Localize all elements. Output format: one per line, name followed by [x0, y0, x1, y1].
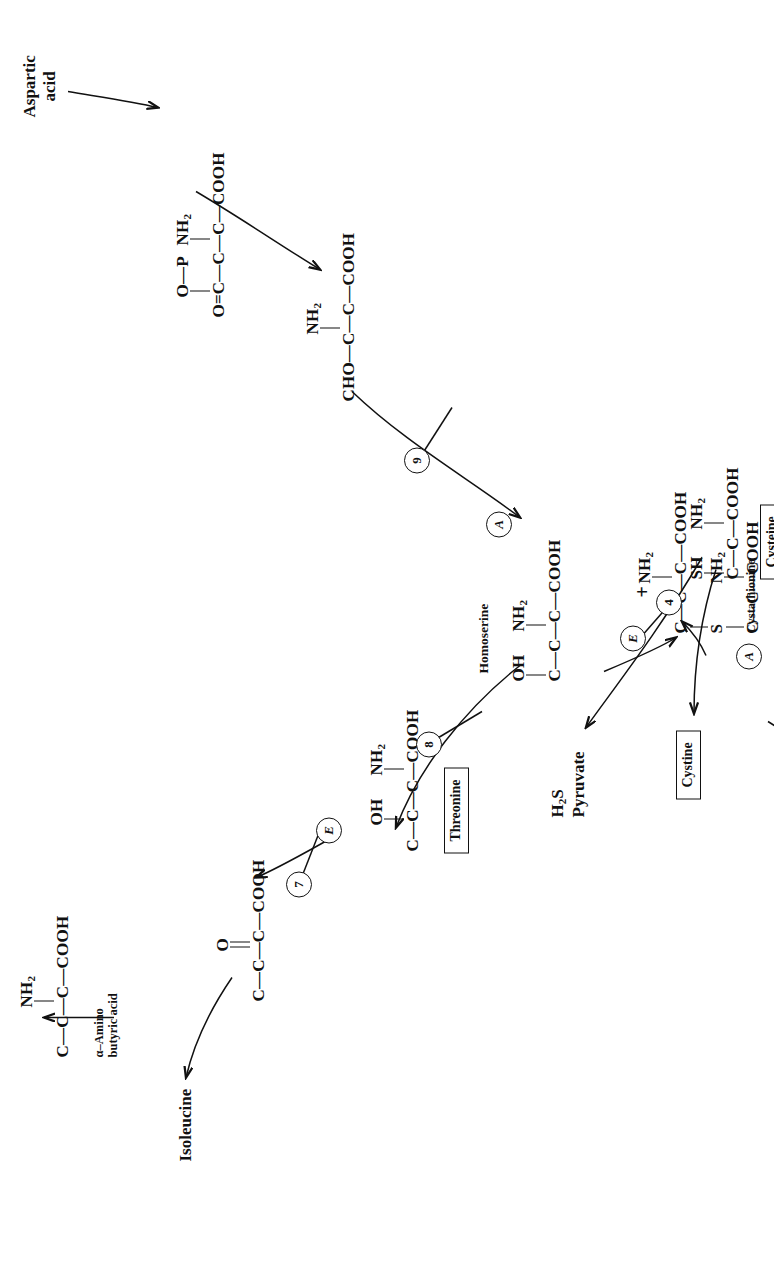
aspartic-acid-line2: acid [40, 71, 59, 101]
marker-e-threonine[interactable]: E [316, 817, 342, 843]
atom-C: C [545, 639, 564, 651]
atom-C: C [723, 537, 742, 549]
backbone-semialdehyde: CHO—C—C—COOH [340, 232, 357, 401]
pendant-O-keto: O [214, 938, 231, 951]
marker-e-cystathionine[interactable]: E [620, 625, 646, 651]
pendant-O-P: O—P [174, 256, 191, 297]
step-marker-4[interactable]: 4 [656, 589, 682, 615]
atom-C: C [249, 989, 268, 1001]
atom-P: P [173, 256, 192, 267]
atom-S: S [707, 623, 726, 633]
bond-vertical-to-S [690, 626, 708, 627]
pendant-NH2: NH2 [510, 599, 529, 631]
subscript-2: 2 [25, 975, 37, 981]
group-COOH: COOH [545, 539, 564, 592]
atom-C: C [545, 669, 564, 681]
bond-double-a [230, 946, 250, 947]
atom-C: C [53, 1015, 72, 1027]
atom-O: O [173, 284, 192, 297]
aspartic-acid-line1: Aspartic [20, 55, 39, 117]
marker-a-homoserine[interactable]: A [486, 511, 512, 537]
group-NH: NH [303, 308, 322, 334]
arrow-semialdehyde-to-homoserine [352, 391, 520, 517]
subscript-2: 2 [643, 551, 655, 557]
pendant-NH2: NH2 [368, 743, 387, 775]
bond-vertical [724, 576, 744, 577]
group-COOH: COOH [723, 467, 742, 520]
group-OH: OH [509, 654, 528, 681]
group-NH: NH [173, 219, 192, 245]
box-cystine: Cystine [676, 730, 701, 799]
group-COOH: COOH [339, 232, 358, 285]
subscript-2: 2 [556, 798, 568, 804]
label-isoleucine: Isoleucine [176, 1088, 196, 1161]
pendant-OH: OH [368, 798, 385, 825]
group-NH: NH [509, 605, 528, 631]
step-marker-8[interactable]: 8 [416, 731, 442, 757]
atom-O: O [209, 304, 228, 317]
label-h2s: H2S [548, 789, 567, 817]
group-OH: OH [367, 798, 386, 825]
aminobutyric-line2: butyric acid [106, 993, 120, 1057]
pendant-NH2-upper: NH2 [636, 551, 655, 583]
step-marker-9[interactable]: 9 [404, 447, 430, 473]
pendant-NH2: NH2 [18, 975, 37, 1007]
subscript-2: 2 [517, 599, 529, 605]
backbone-aminobutyric: C—C—C—COOH [54, 915, 71, 1057]
pendant-NH2: NH2 [688, 497, 707, 529]
atom-C: C [403, 809, 422, 821]
box-threonine: Threonine [444, 767, 469, 853]
pendant-OH: OH [510, 654, 527, 681]
step-marker-7[interactable]: 7 [286, 871, 312, 897]
subscript-2: 2 [715, 551, 727, 557]
aminobutyric-line1: α–Amino [92, 1008, 106, 1057]
double-bond: = [209, 294, 228, 304]
bond-vertical [384, 818, 404, 819]
label-h2s-pyruvate: H2S Pyruvate [548, 751, 590, 817]
label-alpha-amino-butyric-acid: α–Amino butyric acid [92, 993, 120, 1057]
group-COOH: COOH [53, 915, 72, 968]
atom-C: C [209, 252, 228, 264]
atom-O: O [213, 938, 232, 951]
atom-C: C [209, 222, 228, 234]
arrow-aspartate-to-aspartylphosphate [68, 91, 158, 107]
atom-C: C [671, 621, 690, 633]
atom-C: C [249, 929, 268, 941]
subscript-2: 2 [375, 743, 387, 749]
marker-a-cystathionine[interactable]: A [736, 643, 762, 669]
bond-vertical [320, 327, 340, 328]
subscript-2: 2 [695, 497, 707, 503]
backbone-ketobutyrate: C—C—C—COOH [250, 859, 267, 1001]
bond-vertical [652, 576, 672, 577]
label-cystathionine: Cystathionine [744, 559, 758, 633]
backbone-homoserine: C—C—C—COOH [546, 539, 563, 681]
bond-vertical [704, 522, 724, 523]
box-cysteine: Cysteine [760, 504, 774, 579]
pendant-SH: SH [688, 556, 705, 579]
pendant-NH2-lower: NH2 [708, 551, 727, 583]
bond-vertical-from-S [726, 626, 744, 627]
group-CHO: CHO [339, 362, 358, 401]
group-NH: NH [17, 981, 36, 1007]
bond-double-b [230, 941, 250, 942]
bond-vertical [526, 674, 546, 675]
atom-C: C [53, 985, 72, 997]
atom-C: C [403, 779, 422, 791]
atom-H: H [548, 804, 567, 817]
label-homoserine: Homoserine [476, 603, 492, 673]
pendant-NH2: NH2 [304, 302, 323, 334]
bond-vertical [190, 290, 210, 291]
atom-C: C [249, 959, 268, 971]
plus-sign: + [630, 586, 654, 597]
atom-S: S [548, 789, 567, 798]
group-NH: NH [635, 557, 654, 583]
label-aspartic-acid: Aspartic acid [20, 55, 61, 117]
label-pyruvate: Pyruvate [569, 751, 588, 817]
atom-S-bridge: S [708, 623, 725, 633]
subscript-2: 2 [311, 302, 323, 308]
atom-C: C [403, 839, 422, 851]
group-NH: NH [707, 557, 726, 583]
bond-vertical [526, 624, 546, 625]
pendant-NH2: NH2 [174, 213, 193, 245]
group-NH: NH [367, 749, 386, 775]
